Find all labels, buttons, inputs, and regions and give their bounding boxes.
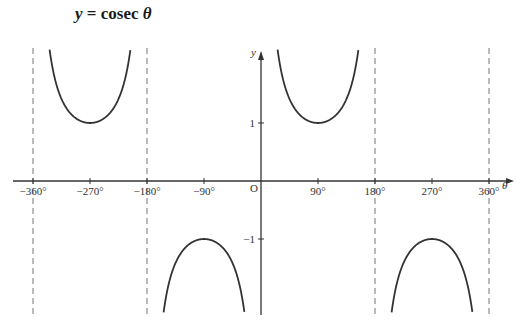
y-axis-arrow-icon [258, 51, 264, 60]
y-tick-label: −1 [243, 233, 255, 245]
axes [13, 51, 514, 315]
x-tick-label: −360° [19, 185, 46, 197]
x-tick-label: −90° [193, 185, 215, 197]
cosec-curve-branch [164, 239, 245, 312]
y-axis-label: y [250, 46, 256, 58]
cosec-curve-branch [278, 50, 359, 123]
x-tick-label: 360° [479, 185, 500, 197]
tick-labels: −360°−270°−180°−90°90°180°270°360°1−1Oyθ [19, 46, 508, 245]
origin-label: O [250, 182, 258, 194]
cosec-curve-branch [392, 239, 473, 312]
x-axis-label: θ [502, 179, 508, 191]
cosec-curve-branch [50, 50, 131, 123]
x-tick-label: −270° [76, 185, 103, 197]
x-tick-label: 90° [310, 185, 325, 197]
x-tick-label: 180° [365, 185, 386, 197]
y-tick-label: 1 [250, 117, 256, 129]
x-tick-label: −180° [133, 185, 160, 197]
x-tick-label: 270° [422, 185, 443, 197]
cosec-plot: −360°−270°−180°−90°90°180°270°360°1−1Oyθ [0, 0, 524, 327]
